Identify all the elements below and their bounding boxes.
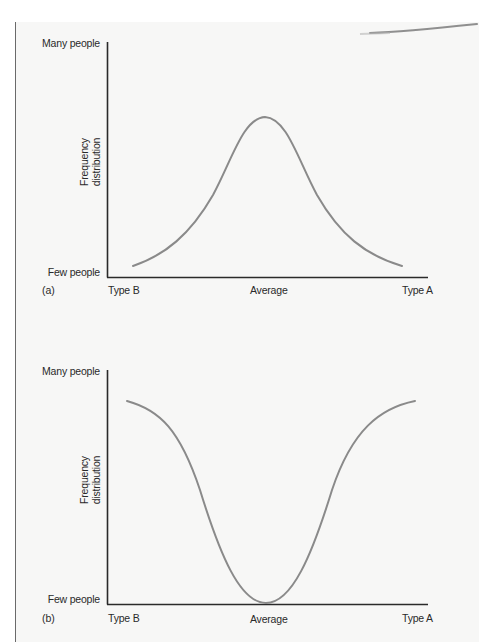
y-title-line2: distribution (90, 435, 102, 525)
y-tick-few-people: Few people (48, 593, 100, 605)
panel-tag-b: (b) (42, 612, 55, 624)
y-tick-many-people: Many people (42, 365, 100, 377)
x-tick-type-b: Type B (108, 284, 139, 296)
bell-curve-line (133, 117, 402, 266)
chart-panel-b: Many people Frequency distribution Few p… (0, 320, 478, 642)
x-tick-average: Average (250, 613, 288, 625)
y-axis-title: Frequency distribution (78, 117, 102, 207)
panel-tag-a: (a) (42, 284, 55, 296)
y-title-line1: Frequency (78, 117, 90, 207)
chart-panel-a: Many people Frequency distribution Few p… (0, 0, 478, 320)
x-tick-type-b: Type B (108, 612, 139, 624)
y-title-line2: distribution (90, 117, 102, 207)
y-title-line1: Frequency (78, 435, 90, 525)
inverted-bell-curve-line (127, 401, 415, 603)
y-tick-many-people: Many people (42, 37, 100, 49)
x-tick-average: Average (250, 284, 288, 296)
x-tick-type-a: Type A (402, 612, 433, 624)
x-tick-type-a: Type A (402, 284, 433, 296)
y-tick-few-people: Few people (48, 266, 100, 278)
y-axis-title: Frequency distribution (78, 435, 102, 525)
